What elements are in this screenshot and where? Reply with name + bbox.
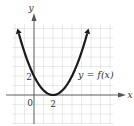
origin-label: 0 [27,98,33,108]
x-axis-arrow-icon [118,93,126,98]
x-axis-label: x [127,90,132,100]
x-tick-label-2: 2 [50,99,56,109]
chart: y x 0 2 2 y = f(x) [0,0,134,126]
curve-label: y = f(x) [77,69,114,80]
curve-arrow-left-icon [16,29,22,35]
y-axis-label: y [27,3,34,13]
y-axis-arrow-icon [32,13,37,21]
y-tick-label-2: 2 [26,72,32,82]
curve-arrow-right-icon [84,29,90,35]
